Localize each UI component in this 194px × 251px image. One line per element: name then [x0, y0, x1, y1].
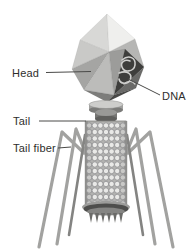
sheath-bead [87, 123, 92, 128]
sheath-bead [115, 123, 120, 128]
collar-top [89, 101, 123, 109]
neck [95, 109, 117, 123]
sheath-bead [103, 175, 108, 180]
sheath-bead [120, 168, 125, 173]
sheath-bead [98, 194, 103, 199]
head-label: Head [12, 67, 39, 79]
sheath-bead [98, 149, 103, 154]
sheath-bead [120, 149, 125, 154]
sheath-bead [115, 149, 120, 154]
sheath-bead [109, 136, 114, 141]
sheath-bead [109, 194, 114, 199]
sheath-bead [92, 181, 97, 186]
sheath-bead [98, 175, 103, 180]
sheath-bead [109, 123, 114, 128]
sheath-bead [109, 188, 114, 193]
sheath-bead [87, 168, 92, 173]
sheath-bead [120, 136, 125, 141]
sheath-bead [87, 194, 92, 199]
sheath-bead [87, 175, 92, 180]
sheath-bead [115, 194, 120, 199]
sheath-bead [103, 136, 108, 141]
sheath-bead [103, 149, 108, 154]
sheath-bead [120, 155, 125, 160]
sheath-bead [92, 123, 97, 128]
sheath-bead [98, 168, 103, 173]
baseplate-spike [113, 213, 117, 223]
sheath-bead [98, 162, 103, 167]
sheath-bead [103, 162, 108, 167]
sheath-bead [109, 149, 114, 154]
sheath-bead [87, 188, 92, 193]
sheath-bead [109, 181, 114, 186]
tail-fiber-label: Tail fiber [13, 142, 56, 154]
sheath-bead [98, 123, 103, 128]
sheath-bead [98, 155, 103, 160]
sheath-bead [103, 129, 108, 134]
sheath-bead [87, 155, 92, 160]
sheath-bead [120, 123, 125, 128]
sheath-bead [115, 188, 120, 193]
sheath-bead [115, 175, 120, 180]
sheath-bead [92, 162, 97, 167]
sheath-bead [115, 181, 120, 186]
sheath-bead [115, 142, 120, 147]
sheath-bead [115, 162, 120, 167]
sheath-bead [87, 181, 92, 186]
sheath-bead [87, 162, 92, 167]
sheath-bead [92, 175, 97, 180]
tail-sheath [85, 121, 127, 209]
sheath-bead [103, 142, 108, 147]
sheath-bead [92, 168, 97, 173]
sheath-bead [103, 188, 108, 193]
sheath-bead [109, 168, 114, 173]
sheath-bead [120, 175, 125, 180]
bacteriophage-diagram: Head DNA Tail Tail fiber [0, 0, 194, 251]
phage-head [72, 14, 144, 102]
sheath-bead [103, 181, 108, 186]
sheath-bead [92, 129, 97, 134]
sheath-bead [103, 123, 108, 128]
sheath-bead [115, 129, 120, 134]
tail-label: Tail [13, 115, 30, 127]
sheath-bead [98, 188, 103, 193]
sheath-bead [115, 168, 120, 173]
sheath-bead [98, 181, 103, 186]
sheath-bead [109, 142, 114, 147]
sheath-bead [87, 129, 92, 134]
sheath-bead [98, 136, 103, 141]
sheath-bead [103, 194, 108, 199]
sheath-bead [109, 129, 114, 134]
baseplate-spike [95, 213, 99, 223]
sheath-bead [115, 136, 120, 141]
bacteriophage-figure: Head DNA Tail Tail fiber [0, 0, 194, 251]
sheath-bead [103, 155, 108, 160]
sheath-bead [87, 142, 92, 147]
baseplate-spike [107, 213, 111, 223]
baseplate-spike [119, 213, 123, 223]
sheath-bead [120, 194, 125, 199]
sheath-bead [120, 142, 125, 147]
sheath-bead [120, 188, 125, 193]
dna-label: DNA [162, 90, 186, 102]
sheath-bead [87, 136, 92, 141]
sheath-bead [109, 155, 114, 160]
sheath-bead [92, 136, 97, 141]
sheath-bead [115, 155, 120, 160]
sheath-bead [120, 162, 125, 167]
sheath-bead [92, 149, 97, 154]
baseplate-spike [101, 213, 105, 223]
sheath-bead [87, 149, 92, 154]
sheath-bead [109, 175, 114, 180]
sheath-bead [92, 188, 97, 193]
sheath-bead [98, 129, 103, 134]
sheath-bead [92, 142, 97, 147]
sheath-bead [92, 194, 97, 199]
sheath-bead [92, 155, 97, 160]
sheath-bead [103, 168, 108, 173]
sheath-bead [109, 162, 114, 167]
sheath-bead [120, 129, 125, 134]
baseplate [82, 201, 130, 223]
neck-top [95, 109, 117, 116]
sheath-bead [120, 181, 125, 186]
